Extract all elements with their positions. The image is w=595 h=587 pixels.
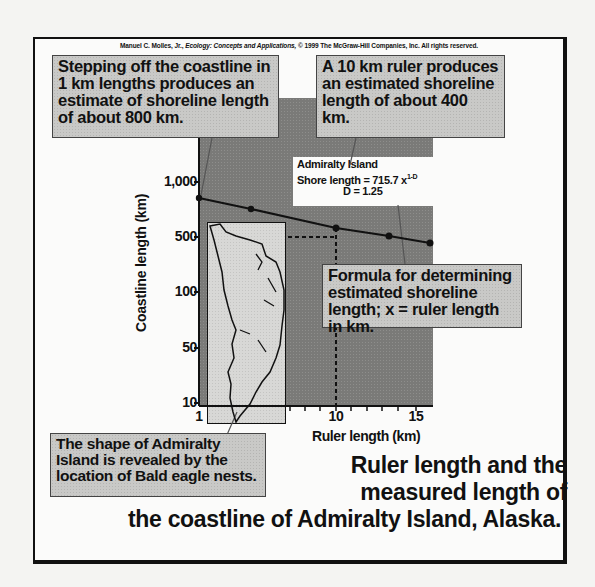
ytick-500: 500 <box>175 228 197 244</box>
ytick-50: 50 <box>182 339 197 355</box>
callout-one-km-ruler: Stepping off the coastline in 1 km lengt… <box>52 55 279 138</box>
xtick-1: 1 <box>184 408 214 424</box>
callout-formula-note: Formula for determining estimated shorel… <box>322 264 522 328</box>
title-line-2: measured length of <box>360 479 567 506</box>
xtick-10: 10 <box>321 408 351 424</box>
title-line-3: the coastline of Admiralty Island, Alask… <box>128 506 561 533</box>
callout-map-note: The shape of Admiralty Island is reveale… <box>50 433 266 497</box>
title-line-1: Ruler length and the <box>351 452 567 479</box>
ytick-1000: 1,000 <box>164 173 197 189</box>
x-axis-label: Ruler length (km) <box>312 428 420 444</box>
ytick-100: 100 <box>175 283 197 299</box>
y-axis-label: Coastline length (km) <box>133 194 149 332</box>
callout-ten-km-ruler: A 10 km ruler produces an estimated shor… <box>316 55 505 138</box>
xtick-15: 15 <box>401 408 431 424</box>
